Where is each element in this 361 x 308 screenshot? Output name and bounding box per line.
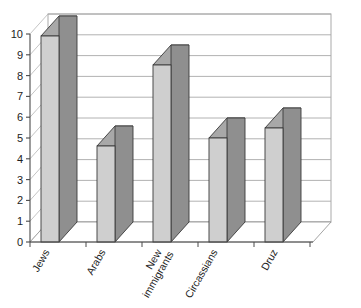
- bar-chart-3d: 10 9 8 7 6 5 4 3 2 1 0: [0, 0, 361, 308]
- ytick-label-10: 10: [11, 28, 23, 40]
- ytick-label-7: 7: [17, 90, 23, 102]
- ytick-label-8: 8: [17, 70, 23, 82]
- ytick-label-0: 0: [17, 236, 23, 248]
- bar-jews-side: [59, 16, 77, 242]
- bar-arabs[interactable]: [97, 126, 133, 242]
- bar-new-immigrants[interactable]: [153, 45, 189, 242]
- bar-druz-side: [283, 108, 301, 242]
- ytick-label-9: 9: [17, 49, 23, 61]
- bar-circassians[interactable]: [209, 118, 245, 242]
- ytick-label-6: 6: [17, 111, 23, 123]
- ytick-label-2: 2: [17, 194, 23, 206]
- bar-jews-front: [41, 36, 59, 242]
- bar-arabs-front: [97, 146, 115, 242]
- bar-druz-front: [265, 128, 283, 242]
- ytick-label-4: 4: [17, 153, 23, 165]
- bar-circassians-front: [209, 138, 227, 242]
- bar-jews[interactable]: [41, 16, 77, 242]
- bar-new-immigrants-front: [153, 65, 171, 242]
- ytick-label-1: 1: [17, 215, 23, 227]
- ytick-label-5: 5: [17, 132, 23, 144]
- bar-arabs-side: [115, 126, 133, 242]
- bar-druz[interactable]: [265, 108, 301, 242]
- bar-circassians-side: [227, 118, 245, 242]
- bar-new-immigrants-side: [171, 45, 189, 242]
- ytick-label-3: 3: [17, 174, 23, 186]
- chart-canvas: 10 9 8 7 6 5 4 3 2 1 0: [0, 0, 361, 308]
